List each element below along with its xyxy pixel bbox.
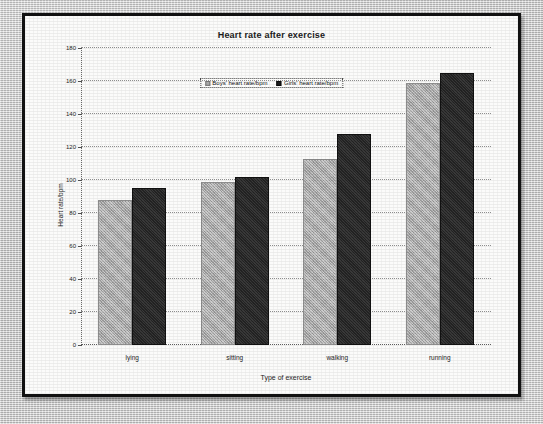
y-tick-label: 100 bbox=[66, 177, 76, 183]
bar-walking-series-0 bbox=[303, 159, 337, 345]
chart-canvas: Heart rate after exercise Boys' heart ra… bbox=[25, 16, 518, 394]
x-tick-label-lying: lying bbox=[126, 354, 139, 361]
bar-running-series-0 bbox=[406, 83, 440, 345]
bar-group: lying bbox=[81, 48, 184, 345]
y-tick-label: 20 bbox=[69, 309, 76, 315]
y-tick-label: 60 bbox=[69, 243, 76, 249]
chart-title: Heart rate after exercise bbox=[25, 30, 518, 40]
y-tick-label: 180 bbox=[66, 45, 76, 51]
bar-running-series-1 bbox=[440, 73, 474, 345]
y-tick-mark bbox=[78, 345, 82, 346]
bar-group: sitting bbox=[184, 48, 287, 345]
y-tick-label: 40 bbox=[69, 276, 76, 282]
y-tick-label: 120 bbox=[66, 144, 76, 150]
x-tick-label-running: running bbox=[429, 354, 451, 361]
y-axis-title: Heart rate/bpm bbox=[57, 183, 64, 226]
bar-lying-series-0 bbox=[98, 200, 132, 345]
y-tick-label: 0 bbox=[73, 342, 76, 348]
bar-sitting-series-0 bbox=[201, 182, 235, 345]
bar-group: walking bbox=[286, 48, 389, 345]
x-tick-label-walking: walking bbox=[326, 354, 348, 361]
bar-groups: lyingsittingwalkingrunning bbox=[81, 48, 491, 345]
plot-area: 020406080100120140160180 lyingsittingwal… bbox=[81, 48, 491, 345]
y-tick-label: 140 bbox=[66, 111, 76, 117]
bar-group: running bbox=[389, 48, 492, 345]
x-tick-label-sitting: sitting bbox=[226, 354, 243, 361]
bar-walking-series-1 bbox=[337, 134, 371, 345]
chart-figure-frame: Heart rate after exercise Boys' heart ra… bbox=[22, 13, 521, 397]
y-tick-label: 80 bbox=[69, 210, 76, 216]
bar-sitting-series-1 bbox=[235, 177, 269, 345]
bar-lying-series-1 bbox=[132, 188, 166, 345]
x-axis-title: Type of exercise bbox=[81, 374, 491, 381]
y-tick-label: 160 bbox=[66, 78, 76, 84]
